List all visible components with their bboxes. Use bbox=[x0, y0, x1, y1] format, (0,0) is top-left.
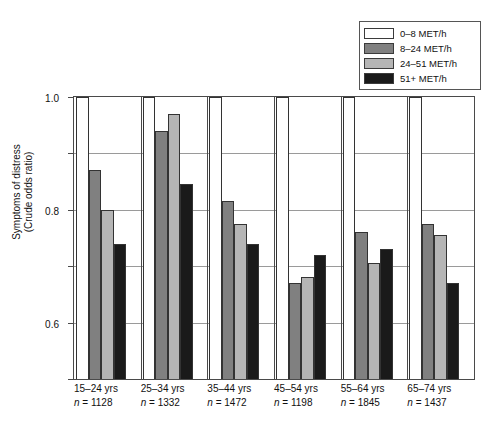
bar-cluster bbox=[409, 97, 459, 379]
x-axis-sample-size: n = 1198 bbox=[274, 396, 340, 410]
bar bbox=[343, 97, 356, 379]
bar bbox=[409, 97, 422, 379]
x-axis-sample-size: n = 1128 bbox=[74, 396, 140, 410]
x-axis-age-label: 65–74 yrs bbox=[407, 382, 473, 396]
bar-groups bbox=[74, 97, 474, 379]
bar bbox=[180, 184, 193, 379]
chart-legend: 0–8 MET/h 8–24 MET/h 24–51 MET/h 51+ MET… bbox=[359, 21, 481, 90]
bar-group bbox=[74, 97, 141, 379]
x-axis-sample-size: n = 1332 bbox=[141, 396, 207, 410]
x-axis-group-label: 25–34 yrsn = 1332 bbox=[140, 382, 207, 422]
legend-label-8-24-met: 8–24 MET/h bbox=[400, 43, 452, 54]
legend-swatch-8-24-met bbox=[364, 43, 394, 54]
y-axis-label: Symptoms of distress(Crude odds ratio) bbox=[11, 112, 35, 272]
bar bbox=[155, 131, 168, 379]
bar-cluster bbox=[343, 97, 393, 379]
legend-item: 8–24 MET/h bbox=[364, 41, 476, 55]
bar bbox=[355, 232, 368, 379]
bar-group bbox=[207, 97, 274, 379]
legend-swatch-0-8-met bbox=[364, 28, 394, 39]
legend-label-24-51-met: 24–51 MET/h bbox=[400, 58, 457, 69]
x-axis-group-label: 45–54 yrsn = 1198 bbox=[273, 382, 340, 422]
chart-figure: 0–8 MET/h 8–24 MET/h 24–51 MET/h 51+ MET… bbox=[0, 0, 491, 431]
legend-item: 51+ MET/h bbox=[364, 71, 476, 85]
bar bbox=[314, 255, 327, 379]
plot-area: 0.00.20.40.60.81.0 bbox=[73, 96, 475, 380]
legend-label-51-plus-met: 51+ MET/h bbox=[400, 73, 447, 84]
x-axis-age-label: 35–44 yrs bbox=[207, 382, 273, 396]
legend-swatch-24-51-met bbox=[364, 58, 394, 69]
bar bbox=[434, 235, 447, 379]
legend-swatch-51-plus-met bbox=[364, 73, 394, 84]
bar bbox=[89, 170, 102, 379]
bar-cluster bbox=[276, 97, 326, 379]
bar-group bbox=[141, 97, 208, 379]
bar bbox=[76, 97, 89, 379]
bar bbox=[234, 224, 247, 379]
bar bbox=[301, 277, 314, 379]
bar bbox=[168, 114, 181, 379]
bar bbox=[143, 97, 156, 379]
bar bbox=[114, 244, 127, 379]
bar bbox=[380, 249, 393, 379]
bar bbox=[422, 224, 435, 379]
bar-group bbox=[341, 97, 408, 379]
x-axis-sample-size: n = 1845 bbox=[341, 396, 407, 410]
y-axis-label-line2: (Crude odds ratio) bbox=[23, 152, 34, 233]
bar-cluster bbox=[76, 97, 126, 379]
x-axis-group-label: 55–64 yrsn = 1845 bbox=[340, 382, 407, 422]
x-axis-age-label: 15–24 yrs bbox=[74, 382, 140, 396]
x-axis-group-label: 15–24 yrsn = 1128 bbox=[73, 382, 140, 422]
bar bbox=[101, 210, 114, 379]
x-axis-age-label: 55–64 yrs bbox=[341, 382, 407, 396]
y-tick-label: 0.6 bbox=[45, 318, 59, 329]
bar-cluster bbox=[143, 97, 193, 379]
y-tick-label: 0.8 bbox=[45, 205, 59, 216]
bar bbox=[289, 283, 302, 379]
x-axis-labels: 15–24 yrsn = 112825–34 yrsn = 133235–44 … bbox=[73, 382, 473, 422]
bar bbox=[368, 263, 381, 379]
y-tick-mark: 0.0 bbox=[68, 379, 74, 380]
x-axis-group-label: 35–44 yrsn = 1472 bbox=[206, 382, 273, 422]
bar bbox=[447, 283, 460, 379]
legend-item: 0–8 MET/h bbox=[364, 26, 476, 40]
bar bbox=[209, 97, 222, 379]
x-axis-sample-size: n = 1472 bbox=[207, 396, 273, 410]
legend-item: 24–51 MET/h bbox=[364, 56, 476, 70]
legend-label-0-8-met: 0–8 MET/h bbox=[400, 28, 446, 39]
x-axis-group-label: 65–74 yrsn = 1437 bbox=[406, 382, 473, 422]
x-axis-age-label: 45–54 yrs bbox=[274, 382, 340, 396]
bar-group bbox=[274, 97, 341, 379]
bar-cluster bbox=[209, 97, 259, 379]
bar bbox=[222, 201, 235, 379]
bar bbox=[276, 97, 289, 379]
x-axis-age-label: 25–34 yrs bbox=[141, 382, 207, 396]
x-axis-sample-size: n = 1437 bbox=[407, 396, 473, 410]
y-tick-label: 1.0 bbox=[45, 93, 59, 104]
bar bbox=[247, 244, 260, 379]
bar-group bbox=[407, 97, 474, 379]
y-axis-label-line1: Symptoms of distress bbox=[11, 144, 22, 240]
